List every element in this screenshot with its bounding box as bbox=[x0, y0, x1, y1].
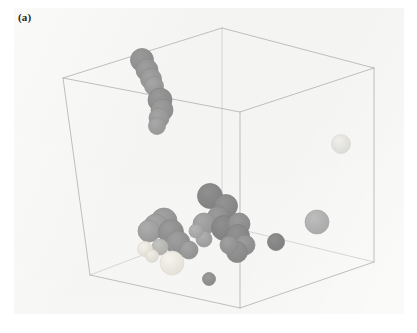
particle-sphere bbox=[146, 250, 159, 263]
particle-sphere bbox=[220, 236, 238, 254]
particle-sphere bbox=[180, 241, 198, 259]
particle-sphere bbox=[268, 234, 285, 251]
particle-sphere bbox=[203, 273, 216, 286]
particle-scatter-group bbox=[131, 49, 351, 286]
simulation-cell-edges bbox=[63, 28, 374, 308]
particle-sphere bbox=[138, 220, 160, 242]
particle-sphere bbox=[305, 210, 329, 234]
cell-edge bbox=[240, 262, 374, 308]
cell-edge bbox=[240, 68, 374, 112]
particle-sphere bbox=[189, 224, 203, 238]
particle-sphere bbox=[160, 251, 184, 275]
particle-sphere bbox=[149, 118, 166, 135]
cell-edge bbox=[222, 28, 374, 68]
cell-edge bbox=[90, 275, 240, 308]
particle-sphere bbox=[332, 135, 351, 154]
figure-panel: (a) bbox=[0, 0, 417, 333]
three-d-scene bbox=[0, 0, 417, 333]
cell-edge bbox=[63, 78, 90, 275]
